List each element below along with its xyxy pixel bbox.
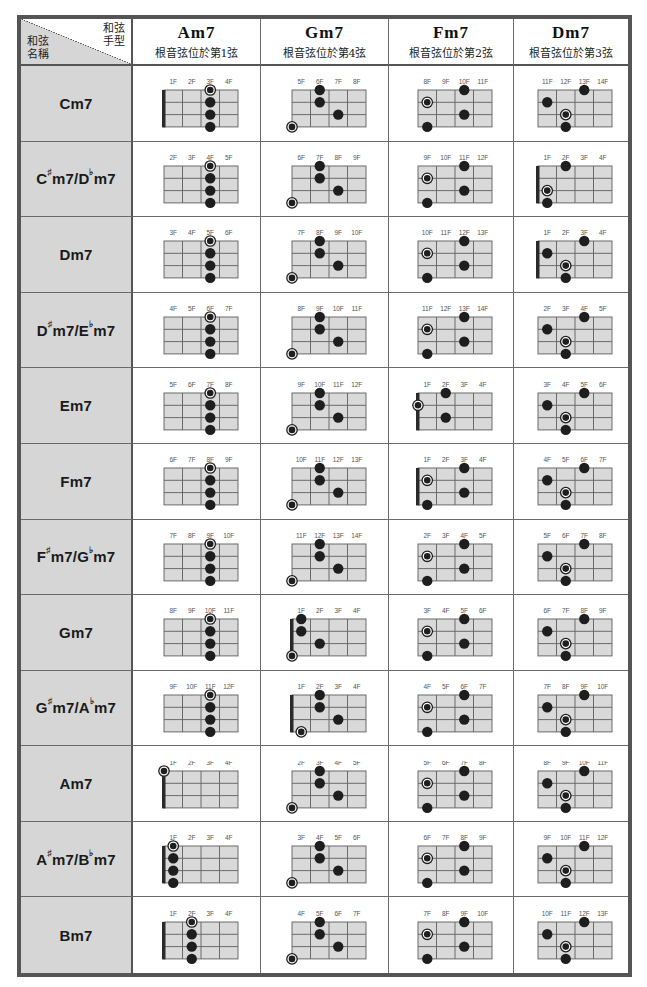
fret-number-label: 14F <box>597 78 608 85</box>
fret-number-label: 7F <box>169 532 177 539</box>
nut-bar <box>536 241 540 278</box>
fretboard-diagram: 3F4F5F6F <box>152 223 242 285</box>
finger-dot <box>314 161 324 171</box>
root-note-dot <box>561 336 571 346</box>
finger-dot <box>422 198 432 208</box>
finger-dot <box>205 500 215 510</box>
fretboard-diagram: 1F2F3F4F <box>280 677 370 739</box>
fret-number-label: 11F <box>542 78 553 85</box>
fret-number-label: 12F <box>459 229 470 236</box>
chord-diagram-c-sharpm7-d-flatm7-dm7-shape: 1F2F3F4F <box>514 142 628 218</box>
fret-number-label: 2F <box>187 759 195 766</box>
finger-dot <box>542 626 552 636</box>
chord-diagram-am7-gm7-shape: 2F3F4F5F <box>261 746 389 822</box>
chord-diagram-d-sharpm7-e-flatm7-gm7-shape: 8F9F10F11F <box>261 293 389 369</box>
fret-number-label: 7F <box>423 910 431 917</box>
fretboard-diagram: 11F12F13F14F <box>526 72 616 134</box>
fret-number-label: 10F <box>295 456 306 463</box>
fret-number-label: 2F <box>442 456 450 463</box>
root-note-dot <box>205 387 215 397</box>
finger-dot <box>314 690 324 700</box>
fretboard-diagram: 1F2F3F4F <box>526 148 616 210</box>
chord-name-g-sharpm7-a-flatm7: G♯m7/A♭m7 <box>21 671 133 747</box>
fret-number-label: 7F <box>334 78 342 85</box>
root-note-dot <box>422 97 432 107</box>
fret-number-label: 9F <box>224 456 232 463</box>
fret-number-label: 4F <box>352 683 360 690</box>
fret-number-label: 9F <box>580 683 588 690</box>
chord-name-dm7: Dm7 <box>21 217 133 293</box>
root-note-dot <box>422 778 432 788</box>
root-note-dot <box>561 714 571 724</box>
fret-number-label: 8F <box>479 759 487 766</box>
finger-dot <box>542 324 552 334</box>
fret-number-label: 3F <box>423 607 431 614</box>
root-note-dot <box>286 878 296 888</box>
fret-number-label: 2F <box>169 154 177 161</box>
finger-dot <box>422 878 432 888</box>
fret-number-label: 10F <box>597 683 608 690</box>
finger-dot <box>296 614 306 624</box>
finger-dot <box>459 110 469 120</box>
fret-number-label: 5F <box>297 78 305 85</box>
finger-dot <box>542 702 552 712</box>
chord-name-am7: Am7 <box>21 746 133 822</box>
flat-sign: ♭ <box>90 696 94 706</box>
chord-name-label: Dm7 <box>59 246 92 263</box>
chord-name-label: C♯m7/D♭m7 <box>36 170 116 187</box>
fretboard-diagram: 9F10F11F12F <box>280 375 370 437</box>
fret-number-label: 6F <box>224 229 232 236</box>
chord-diagram-c-sharpm7-d-flatm7-gm7-shape: 6F7F8F9F <box>261 142 389 218</box>
column-header-gm7-shape: Gm7 根音弦位於第4弦 <box>261 19 389 66</box>
root-note-dot <box>168 841 178 851</box>
root-note-dot <box>205 236 215 246</box>
fretboard-diagram: 7F8F9F10F <box>152 526 242 588</box>
root-note-dot <box>422 475 432 485</box>
fret-number-label: 10F <box>542 910 553 917</box>
finger-dot <box>542 778 552 788</box>
fretboard-diagram: 1F2F3F4F <box>152 72 242 134</box>
fret-number-label: 3F <box>460 381 468 388</box>
fret-number-label: 11F <box>477 78 488 85</box>
finger-dot <box>542 198 552 208</box>
fret-number-label: 11F <box>351 305 362 312</box>
chord-shape-label-line2: 手型 <box>103 35 125 48</box>
fret-number-label: 1F <box>169 78 177 85</box>
root-note-dot <box>561 866 571 876</box>
chord-diagram-dm7-fm7-shape: 10F11F12F13F <box>389 217 514 293</box>
fretboard-diagram: 1F2F3F4F <box>152 753 242 815</box>
fret-number-label: 8F <box>352 78 360 85</box>
fretboard-diagram: 5F6F7F8F <box>280 72 370 134</box>
finger-dot <box>205 575 215 585</box>
finger-dot <box>205 563 215 573</box>
root-note-dot <box>561 261 571 271</box>
fretboard-diagram: 11F12F13F14F <box>280 526 370 588</box>
finger-dot <box>561 575 571 585</box>
chord-diagram-dm7-dm7-shape: 1F2F3F4F <box>514 217 628 293</box>
finger-dot <box>333 261 343 271</box>
fret-number-label: 12F <box>477 154 488 161</box>
fretboard-diagram: 9F10F11F12F <box>406 148 496 210</box>
chord-diagram-d-sharpm7-e-flatm7-dm7-shape: 2F3F4F5F <box>514 293 628 369</box>
finger-dot <box>561 727 571 737</box>
finger-dot <box>314 539 324 549</box>
fret-number-label: 12F <box>223 683 234 690</box>
finger-dot <box>333 866 343 876</box>
fret-number-label: 3F <box>169 229 177 236</box>
root-note-dot <box>413 400 423 410</box>
fret-number-label: 9F <box>315 305 323 312</box>
root-note-dot <box>422 929 432 939</box>
nut-bar <box>162 922 166 959</box>
finger-dot <box>422 954 432 964</box>
finger-dot <box>561 349 571 359</box>
fret-number-label: 13F <box>459 305 470 312</box>
finger-dot <box>314 475 324 485</box>
fret-number-label: 11F <box>560 910 571 917</box>
fret-number-label: 5F <box>206 229 214 236</box>
finger-dot <box>168 878 178 888</box>
chord-diagram-a-sharpm7-b-flatm7-am7-shape: 1F2F3F4F <box>133 822 261 898</box>
fret-number-label: 2F <box>297 759 305 766</box>
fret-number-label: 4F <box>562 381 570 388</box>
fret-number-label: 1F <box>543 154 551 161</box>
fret-number-label: 14F <box>351 532 362 539</box>
